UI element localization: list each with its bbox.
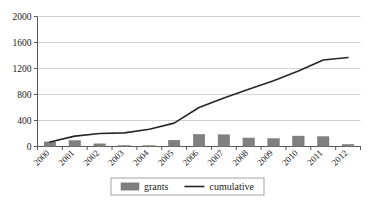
grants-cumulative-chart: 0400800120016002000 20002001200220032004… bbox=[0, 0, 371, 202]
x-tick-label-2000: 2000 bbox=[32, 147, 52, 167]
x-tick-label-2009: 2009 bbox=[255, 147, 275, 167]
x-tick-label-2005: 2005 bbox=[156, 147, 176, 167]
bar-2005 bbox=[168, 140, 179, 146]
bar-2001 bbox=[69, 141, 80, 147]
x-tick-label-2004: 2004 bbox=[131, 147, 151, 167]
bar-series-grants bbox=[44, 134, 354, 146]
y-tick-label: 800 bbox=[17, 90, 32, 100]
bar-2002 bbox=[94, 144, 105, 147]
x-tick-label-2012: 2012 bbox=[330, 148, 350, 168]
line-series-cumulative bbox=[50, 57, 348, 142]
x-tick-label-2006: 2006 bbox=[181, 147, 201, 167]
y-tick-label: 1600 bbox=[13, 38, 32, 48]
x-tick-label-2002: 2002 bbox=[81, 148, 101, 168]
x-tick-label-2010: 2010 bbox=[280, 147, 300, 167]
x-tick-label-2008: 2008 bbox=[230, 147, 250, 167]
bar-2003 bbox=[119, 146, 130, 147]
bar-2010 bbox=[293, 136, 304, 146]
y-tick-label: 0 bbox=[27, 142, 32, 152]
x-tick-labels: 2000200120022003200420052006200720082009… bbox=[32, 147, 350, 167]
y-tick-labels: 0400800120016002000 bbox=[13, 12, 32, 152]
x-tick-marks bbox=[38, 147, 361, 151]
y-tick-label: 2000 bbox=[13, 12, 32, 22]
chart-container: 0400800120016002000 20002001200220032004… bbox=[0, 0, 371, 202]
x-tick-label-2007: 2007 bbox=[205, 147, 225, 167]
y-tick-label: 400 bbox=[17, 116, 32, 126]
gridlines bbox=[38, 17, 361, 147]
bar-2007 bbox=[218, 135, 229, 147]
legend-swatch-grants bbox=[121, 183, 139, 190]
x-tick-label-2001: 2001 bbox=[56, 148, 76, 168]
bar-2004 bbox=[144, 146, 155, 147]
bar-2009 bbox=[268, 139, 279, 147]
bar-2011 bbox=[318, 137, 329, 147]
legend-label-grants: grants bbox=[144, 181, 169, 192]
x-tick-label-2003: 2003 bbox=[106, 147, 126, 167]
legend-label-cumulative: cumulative bbox=[209, 181, 254, 192]
bar-2008 bbox=[243, 138, 254, 146]
y-tick-marks bbox=[34, 17, 38, 147]
cumulative-line-path bbox=[50, 57, 348, 142]
y-tick-label: 1200 bbox=[13, 64, 32, 74]
chart-legend: grantscumulative bbox=[111, 178, 264, 195]
x-tick-label-2011: 2011 bbox=[305, 148, 325, 168]
bar-2012 bbox=[342, 145, 353, 147]
bar-2006 bbox=[193, 134, 204, 146]
